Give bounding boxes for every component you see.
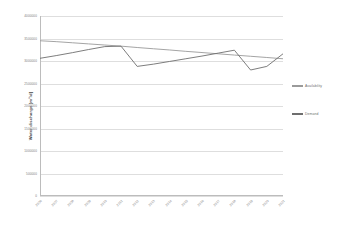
y-axis-tick-label: 2500000 xyxy=(24,82,37,86)
legend-item-demand[interactable]: Demand xyxy=(292,112,338,116)
legend-label: Demand xyxy=(305,112,318,116)
x-axis-tick-label: 2019 xyxy=(245,199,253,207)
x-axis-tick-label: 2015 xyxy=(180,199,188,207)
y-axis-tick-label: 1500000 xyxy=(24,127,37,131)
x-axis-tick-label: 2020 xyxy=(261,199,269,207)
legend-item-availability[interactable]: Availability xyxy=(292,84,338,88)
x-axis-tick-label: 2013 xyxy=(148,199,156,207)
x-axis-tick-label: 2007 xyxy=(51,199,59,207)
y-axis-tick-label: 3500000 xyxy=(24,37,37,41)
chart-container: Water discharge [m³/d] 05000001000000150… xyxy=(0,0,338,231)
y-axis-title: Water discharge [m³/d] xyxy=(28,91,33,140)
plot-area: 0500000100000015000002000000250000030000… xyxy=(40,16,283,196)
series-layer xyxy=(40,16,283,196)
legend-swatch-icon xyxy=(292,113,303,114)
y-axis-tick-label: 500000 xyxy=(26,172,37,176)
x-axis-tick-label: 2014 xyxy=(164,199,172,207)
x-axis-tick-label: 2018 xyxy=(229,199,237,207)
x-axis-tick-label: 2012 xyxy=(132,199,140,207)
legend-swatch-icon xyxy=(292,85,303,86)
legend: AvailabilityDemand xyxy=(292,84,338,140)
x-axis-tick-label: 2009 xyxy=(83,199,91,207)
x-axis-tick-label: 2017 xyxy=(213,199,221,207)
x-axis-tick-label: 2011 xyxy=(116,199,124,207)
y-axis-tick-label: 3000000 xyxy=(24,59,37,63)
x-axis-tick-label: 2010 xyxy=(99,199,107,207)
y-axis-tick-label: 0 xyxy=(35,194,37,198)
y-axis-tick-label: 2000000 xyxy=(24,104,37,108)
x-axis-tick-label: 2008 xyxy=(67,199,75,207)
y-axis-tick-label: 4000000 xyxy=(24,14,37,18)
series-line-availability xyxy=(40,41,283,59)
gridline xyxy=(40,196,283,197)
y-axis-tick-label: 1000000 xyxy=(24,149,37,153)
legend-label: Availability xyxy=(305,84,322,88)
x-axis-tick-label: 2021 xyxy=(278,199,286,207)
x-axis-tick-label: 2006 xyxy=(35,199,43,207)
x-axis-tick-label: 2016 xyxy=(197,199,205,207)
